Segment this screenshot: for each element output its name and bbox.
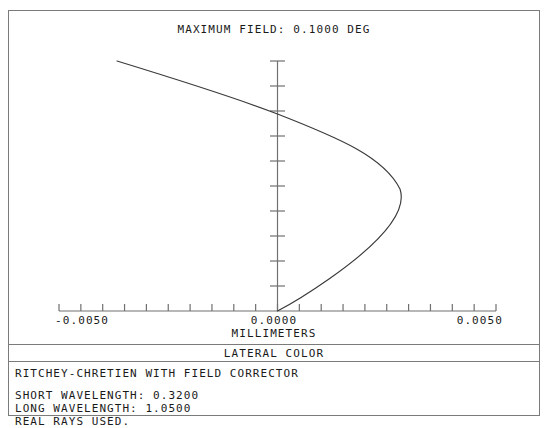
lateral-color-curve: [117, 61, 401, 311]
footer-spacer: [15, 380, 539, 389]
footer-details: RITCHEY-CHRETIEN WITH FIELD CORRECTOR SH…: [9, 361, 539, 415]
x-tick-label-max: 0.0050: [457, 314, 503, 327]
system-name-text: RITCHEY-CHRETIEN WITH FIELD CORRECTOR: [15, 367, 539, 380]
plot-region: MAXIMUM FIELD: 0.1000 DEG: [9, 11, 539, 336]
x-axis-title: MILLIMETERS: [9, 327, 539, 340]
short-wavelength-text: SHORT WAVELENGTH: 0.3200: [15, 389, 539, 402]
rays-note-text: REAL RAYS USED.: [15, 415, 539, 428]
plot-window: MAXIMUM FIELD: 0.1000 DEG: [8, 10, 540, 416]
long-wavelength-text: LONG WAVELENGTH: 1.0500: [15, 402, 539, 415]
plot-canvas: [9, 11, 539, 336]
footer-heading: LATERAL COLOR: [9, 344, 539, 361]
